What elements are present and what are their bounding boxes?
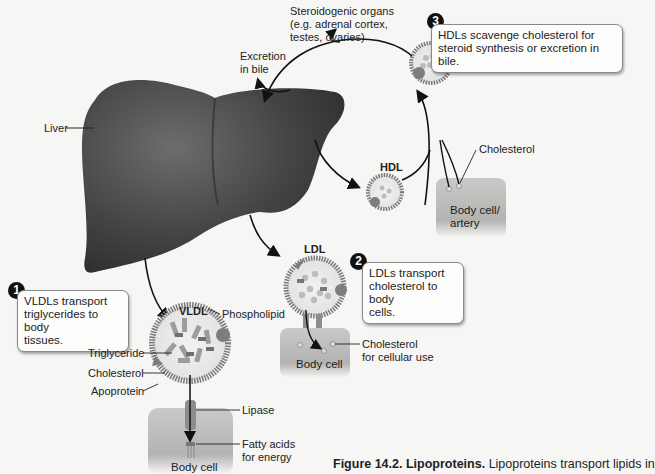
fatty-acids-line1: Fatty acids (242, 438, 295, 451)
callout-hdl-line2: steroid synthesis or excretion in bile. (438, 42, 616, 68)
callout-ldl-line3: cells. (369, 306, 457, 319)
steroidogenic-line2: (e.g. adrenal cortex, (290, 18, 394, 31)
liver-label: Liver (44, 122, 68, 135)
callout-vldl: VLDLs transport triglycerides to body ti… (17, 290, 129, 352)
callout-vldl-line3: tissues. (24, 334, 122, 347)
steroidogenic-organs-label: Steroidogenic organs (e.g. adrenal corte… (290, 5, 394, 44)
fatty-acids-label: Fatty acids for energy (242, 438, 295, 464)
callout-vldl-line2: triglycerides to body (24, 308, 122, 334)
body-cell-artery-line2: artery (450, 217, 500, 230)
apoprotein-label: Apoprotein (91, 385, 144, 398)
steroidogenic-line1: Steroidogenic organs (290, 5, 394, 18)
body-cell-artery-line1: Body cell/ (450, 204, 500, 217)
phospholipid-label: Phospholipid (222, 308, 285, 321)
callout-ldl-line1: LDLs transport (369, 267, 457, 280)
ldl-cholesterol-line2: for cellular use (362, 351, 434, 364)
ldl-particle (286, 258, 347, 316)
caption-text: Lipoproteins transport lipids in (489, 457, 655, 471)
triglyceride-label: Triglyceride (88, 347, 144, 360)
ldl-label: LDL (304, 243, 325, 256)
hdl-particle (368, 175, 402, 209)
cholesterol-for-cellular-use-label: Cholesterol for cellular use (362, 338, 434, 364)
callout-hdl: HDLs scavenge cholesterol for steroid sy… (431, 24, 623, 73)
excretion-line1: Excretion (240, 50, 286, 63)
caption-label: Figure 14.2. (333, 457, 402, 471)
callout-hdl-line1: HDLs scavenge cholesterol for (438, 29, 616, 42)
steroidogenic-line3: testes, ovaries) (290, 31, 394, 44)
ldl-cholesterol-line1: Cholesterol (362, 338, 434, 351)
vldl-body-cell-label: Body cell (171, 461, 218, 474)
callout-vldl-line1: VLDLs transport (24, 295, 122, 308)
body-cell-artery-label: Body cell/ artery (450, 204, 500, 230)
lipase-label: Lipase (242, 404, 274, 417)
hdl-label: HDL (380, 161, 403, 174)
ldl-body-cell-label: Body cell (296, 358, 343, 371)
fatty-acids-line2: for energy (242, 451, 295, 464)
cholesterol-label: Cholesterol (88, 367, 144, 380)
vldl-label: VLDL (179, 305, 208, 318)
excretion-in-bile-label: Excretion in bile (240, 50, 286, 76)
figure-caption: Figure 14.2. Lipoproteins. Lipoproteins … (333, 457, 655, 472)
callout-ldl-line2: cholesterol to body (369, 280, 457, 306)
callout-ldl: LDLs transport cholesterol to body cells… (362, 262, 464, 324)
hdl-cholesterol-label: Cholesterol (479, 143, 535, 156)
excretion-line2: in bile (240, 63, 286, 76)
caption-title: Lipoproteins. (406, 457, 485, 471)
